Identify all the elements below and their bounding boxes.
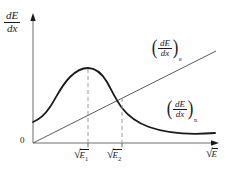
right-paren-icon: )	[188, 98, 194, 119]
left-paren-icon: (	[167, 98, 173, 119]
x-axis-label: √E	[206, 147, 219, 159]
nuclear-stopping-label-group: (dEdx)n	[166, 99, 197, 120]
sqrt-glyph: √E2	[107, 148, 123, 160]
stopping-power-figure: dE dx (dEdx)e (dEdx)n 0 √E1 √E2 √E	[0, 0, 234, 171]
electronic-subscript: e	[179, 56, 182, 62]
nuclear-denominator: dx	[173, 110, 187, 119]
x-tick-label-2: √E2	[107, 148, 123, 160]
y-axis-arrowhead	[30, 13, 35, 21]
electronic-stopping-label-group: (dEdx)e	[151, 38, 182, 59]
electronic-stopping-fraction: dEdx	[158, 39, 172, 59]
nuclear-stopping-label: (dEdx)n	[166, 99, 197, 120]
radicand-symbol: E	[212, 149, 218, 159]
electronic-denominator: dx	[158, 49, 172, 58]
y-axis-label-numerator: dE	[4, 10, 20, 23]
x-tick-label-1: √E1	[74, 148, 90, 160]
radicand-index: 1	[85, 155, 88, 162]
electronic-stopping-label: (dEdx)e	[151, 38, 182, 59]
right-paren-icon: )	[173, 37, 179, 58]
sqrt-glyph: √E1	[74, 148, 90, 160]
radicand-group: E2	[113, 149, 123, 160]
plot-canvas	[0, 0, 234, 171]
radicand-group: E	[212, 148, 219, 159]
y-axis-label: dE dx	[4, 10, 20, 34]
y-axis-label-fraction: dE dx	[4, 10, 20, 34]
left-paren-icon: (	[152, 37, 158, 58]
nuclear-stopping-fraction: dEdx	[173, 100, 187, 120]
origin-label: 0	[20, 136, 25, 145]
radicand-group: E1	[80, 149, 90, 160]
nuclear-subscript: n	[194, 117, 197, 123]
radicand-index: 2	[118, 155, 121, 162]
y-axis-label-denominator: dx	[4, 23, 20, 35]
sqrt-glyph: √E	[206, 147, 219, 159]
